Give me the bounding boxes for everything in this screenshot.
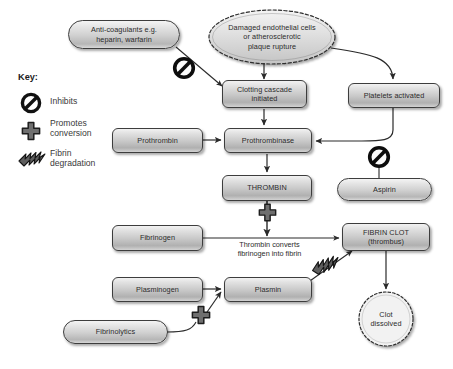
annotation-thrombin-converts: Thrombin converts fibrinogen into fibrin [227, 240, 312, 259]
node-plasmin-label: Plasmin [255, 285, 281, 294]
node-aspirin[interactable]: Aspirin [337, 178, 432, 201]
node-clot-line1: Clot [370, 310, 401, 319]
inhibits-icon-anticoagulants [172, 56, 196, 84]
node-fibrinogen[interactable]: Fibrinogen [112, 225, 203, 251]
node-anticoagulants[interactable]: Anti-coagulants e.g. heparin, warfarin [68, 20, 180, 49]
node-anticoagulants-line1: Anti-coagulants e.g. [91, 25, 157, 34]
key-label-fibrin-line2: degradation [50, 158, 95, 168]
promotes-conversion-icon [21, 121, 41, 145]
node-thrombin-label: THROMBIN [247, 183, 287, 192]
promotes-conversion-icon-fibrinolytics [191, 305, 211, 329]
key-label-promotes: Promotes conversion [50, 118, 92, 139]
node-damaged-line2: or atherosclerotic [228, 32, 315, 41]
node-fibrinolytics[interactable]: Fibrinolytics [63, 320, 168, 344]
node-clotting-line2: initiated [237, 94, 292, 103]
node-damaged-endothelium[interactable]: Damaged endothelial cells or atheroscler… [210, 18, 334, 56]
key-label-inhibits: Inhibits [50, 96, 77, 106]
node-fibrin-clot[interactable]: FIBRIN CLOT (thrombus) [342, 223, 430, 251]
node-prothrombinase[interactable]: Prothrombinase [224, 128, 312, 153]
node-clot-dissolved[interactable]: Clot dissolved [361, 305, 411, 333]
node-thrombin[interactable]: THROMBIN [222, 175, 312, 201]
node-fibrin-clot-line2: (thrombus) [363, 237, 409, 246]
node-fibrinolytics-label: Fibrinolytics [96, 327, 135, 336]
key-label-fibrin-degradation: Fibrin degradation [50, 148, 95, 169]
fibrin-degradation-icon [17, 150, 47, 172]
node-platelets-label: Platelets activated [364, 91, 425, 100]
node-clot-line2: dissolved [370, 319, 401, 328]
node-aspirin-label: Aspirin [373, 185, 396, 194]
edge-platelets-to-prothrombinase [316, 108, 393, 141]
annotation-line1: Thrombin converts [227, 240, 312, 249]
node-platelets-activated[interactable]: Platelets activated [348, 83, 440, 108]
node-plasminogen[interactable]: Plasminogen [112, 277, 203, 302]
node-clotting-cascade[interactable]: Clotting cascade initiated [222, 80, 307, 108]
node-fibrinogen-label: Fibrinogen [140, 233, 175, 242]
key-label-promotes-line1: Promotes [50, 118, 92, 128]
key-label-promotes-line2: conversion [50, 128, 92, 138]
node-plasminogen-label: Plasminogen [136, 285, 179, 294]
node-prothrombinase-label: Prothrombinase [242, 136, 295, 145]
node-plasmin[interactable]: Plasmin [224, 277, 312, 302]
node-clotting-line1: Clotting cascade [237, 85, 292, 94]
node-damaged-line3: plaque rupture [228, 42, 315, 51]
key-heading: Key: [18, 72, 38, 82]
node-prothrombin[interactable]: Prothrombin [112, 128, 203, 153]
node-anticoagulants-line2: heparin, warfarin [91, 35, 157, 44]
diagram-canvas: Key: Inhibits Promotes conversion Fibrin… [0, 0, 453, 369]
annotation-line2: fibrinogen into fibrin [227, 249, 312, 258]
key-label-fibrin-line1: Fibrin [50, 148, 95, 158]
inhibits-icon-aspirin [367, 145, 391, 173]
promotes-conversion-icon-thrombin [258, 203, 277, 226]
node-fibrin-clot-line1: FIBRIN CLOT [363, 228, 409, 237]
node-damaged-line1: Damaged endothelial cells [228, 23, 315, 32]
inhibits-icon [20, 92, 42, 118]
edge-damage-to-platelets [331, 48, 393, 79]
node-prothrombin-label: Prothrombin [137, 136, 178, 145]
